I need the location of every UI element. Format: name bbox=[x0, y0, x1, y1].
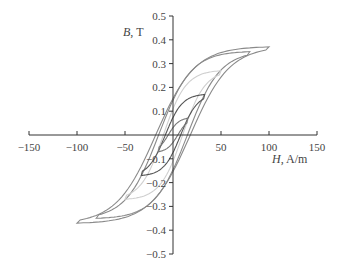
x-axis: −150−100−5050100150 bbox=[18, 131, 326, 153]
y-axis-label: B, T bbox=[123, 25, 144, 39]
x-tick-label: 150 bbox=[309, 141, 326, 153]
y-tick-label: 0.2 bbox=[152, 81, 166, 93]
x-tick-label: 50 bbox=[216, 141, 228, 153]
x-tick-label: −150 bbox=[18, 141, 41, 153]
x-tick-label: −50 bbox=[116, 141, 134, 153]
y-tick-label: 0.5 bbox=[152, 10, 166, 22]
x-tick-label: −100 bbox=[66, 141, 89, 153]
y-tick-label: −0.1 bbox=[146, 153, 166, 165]
x-axis-label: H, A/m bbox=[271, 152, 308, 166]
y-tick-label: 0.4 bbox=[152, 34, 166, 46]
y-tick-label: 0.3 bbox=[152, 58, 166, 70]
y-tick-label: 0.1 bbox=[152, 105, 166, 117]
y-tick-label: −0.5 bbox=[146, 248, 166, 260]
y-tick-label: −0.4 bbox=[146, 224, 166, 236]
y-tick-label: −0.2 bbox=[146, 177, 166, 189]
hysteresis-chart: −150−100−5050100150 0.50.40.30.20.1−0.1−… bbox=[0, 0, 338, 269]
y-tick-label: −0.3 bbox=[146, 200, 166, 212]
